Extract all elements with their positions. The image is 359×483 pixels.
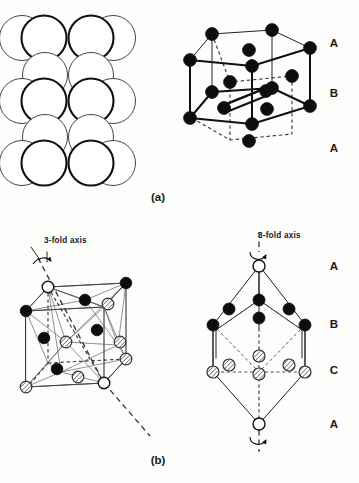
rotation-arrow-icon [33, 258, 51, 264]
fcc-atom-c-hatched [72, 371, 84, 383]
crystal-structure-figure: A B A (a) [0, 0, 359, 483]
fcc-atom-b-black [38, 332, 50, 344]
hcp-atom-a-centre [243, 135, 256, 148]
hcp-atom-a [184, 54, 197, 67]
sphere-row-a2 [0, 79, 136, 124]
hcp-atom-a [304, 42, 317, 55]
fcc-atom-b-black [79, 294, 91, 306]
fcc-atom-b-black [91, 324, 103, 336]
hcp-atom-b [261, 103, 274, 116]
rhomb-atom-b [223, 303, 235, 315]
sphere-row-a1 [0, 16, 136, 61]
hcp-atom-b [218, 102, 231, 115]
hcp-atom-a [304, 100, 317, 113]
fcc-atom-c-hatched [60, 336, 72, 348]
panel-a-caption: (a) [151, 191, 165, 203]
fcc-atom-c-hatched [102, 298, 114, 310]
hcp-hidden-edge [192, 118, 292, 140]
rhomb-atom-c [253, 368, 265, 380]
rhomb-atom-b [283, 303, 295, 315]
hcp-atom-a [184, 112, 197, 125]
hcp-unit-cell [184, 24, 317, 148]
fcc-atom-b-black [20, 305, 32, 317]
fcc-atom-c-hatched [114, 336, 126, 348]
rhomb-atom-b [253, 294, 265, 306]
rhomb-atom-c [223, 359, 235, 371]
close-packed-sphere-stacking [0, 16, 136, 186]
fcc-cube-axis-label: 3-fold axis [44, 236, 87, 245]
fcc-atom-b-black [51, 363, 63, 375]
axis-pointer-tick [31, 247, 40, 260]
rhomb-atom-b [207, 319, 219, 331]
panel-b-layer-label-a-bottom: A [330, 418, 339, 430]
hcp-atom-a [246, 60, 259, 73]
hcp-atom-a [266, 82, 279, 95]
hcp-atom-a-centre [243, 44, 256, 57]
fcc-3fold-axis-lower [104, 383, 150, 436]
fcc-atom-a-open [98, 377, 110, 389]
rhomb-atom-c [283, 359, 295, 371]
hcp-atom-a [224, 76, 237, 89]
rhomb-atom-c [299, 366, 311, 378]
fcc-rhombohedral-layers [207, 232, 311, 452]
rotation-arrow-icon-top [250, 252, 266, 259]
rhomb-atom-a-bottom [253, 418, 265, 430]
rhomb-atom-a-top [253, 260, 265, 272]
panel-a-layer-label-mid: B [330, 87, 339, 99]
panel-b-layer-label-c: C [330, 364, 339, 376]
hcp-atom-a [206, 86, 219, 99]
panel-a-layer-label-bottom: A [330, 142, 339, 154]
panel-b-layer-label-a-top: A [330, 260, 339, 272]
fcc-atom-c-hatched [20, 381, 32, 393]
hcp-atom-a [246, 118, 259, 131]
panel-b-layer-label-b: B [330, 318, 339, 330]
sphere [69, 141, 114, 186]
fcc-cube-3fold-axis [20, 247, 150, 436]
rhomb-inner-left [216, 300, 259, 358]
rhomb-atom-b [299, 319, 311, 331]
rhomb-atom-b [253, 312, 265, 324]
sphere-row-a3 [0, 141, 136, 186]
hcp-atom-a [286, 70, 299, 83]
rotation-arrow-icon-bottom [250, 437, 266, 444]
rhomb-axis-label: 3-fold axis [258, 231, 301, 240]
hcp-atom-a [206, 28, 219, 41]
panel-a-layer-label-top: A [330, 37, 339, 49]
rhomb-atom-c [253, 350, 265, 362]
rhomb-inner-right [259, 300, 302, 358]
sphere [22, 141, 67, 186]
figure-root: A B A (a) [0, 0, 359, 483]
fcc-atom-c-hatched [120, 353, 132, 365]
hcp-atom-a [266, 24, 279, 37]
panel-b-caption: (b) [151, 454, 166, 466]
rhomb-atom-c [207, 366, 219, 378]
fcc-atom-b-black [120, 277, 132, 289]
fcc-atom-a-open [42, 281, 54, 293]
